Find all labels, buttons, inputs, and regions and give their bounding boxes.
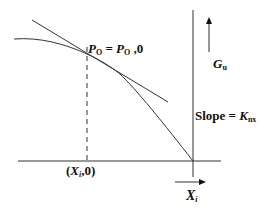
xi0-label: (Xi,0): [66, 164, 95, 179]
gu-label: Gu: [213, 57, 227, 72]
diagram: PO = PO ,0 Gu Slope = Knx (Xi,0) Xi: [0, 0, 272, 210]
p0-tail: ,0: [130, 41, 143, 56]
slope-label: Slope = Knx: [195, 109, 256, 124]
xi0-symbol: X: [70, 163, 79, 178]
p0-label: PO = PO ,0: [88, 42, 143, 57]
xi-label: Xi: [186, 189, 198, 204]
p0-rhs-symbol: P: [116, 41, 124, 56]
diagram-lines: [0, 0, 272, 210]
slope-subscript: nx: [248, 115, 256, 124]
gu-subscript: u: [222, 63, 226, 72]
gu-arrow-head-icon: [206, 17, 212, 24]
xi-subscript: i: [195, 195, 197, 204]
gu-symbol: G: [213, 56, 222, 71]
slope-text: Slope =: [195, 108, 239, 123]
xi-symbol: X: [186, 188, 195, 203]
slope-symbol: K: [239, 108, 248, 123]
performance-curve: [14, 39, 193, 161]
xi-arrow-head-icon: [199, 179, 206, 185]
p0-symbol: P: [88, 41, 96, 56]
equals-sign: =: [102, 41, 116, 56]
xi0-tail: ,0): [81, 163, 95, 178]
